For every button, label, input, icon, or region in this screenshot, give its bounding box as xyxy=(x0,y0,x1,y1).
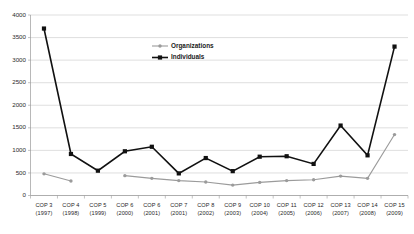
gridlines xyxy=(31,15,409,196)
data-point-marker xyxy=(339,174,342,177)
y-tick-labels: 05001000150020002500300035004000 xyxy=(12,11,26,199)
data-point-marker xyxy=(258,155,262,159)
y-tick-label: 1500 xyxy=(12,123,26,130)
chart-legend: OrganizationsIndividuals xyxy=(152,42,214,61)
x-tick-label: COP 3(1997) xyxy=(35,202,52,216)
legend-label: Individuals xyxy=(171,53,205,60)
y-tick-label: 2500 xyxy=(12,78,26,85)
y-tick-label: 0 xyxy=(23,191,27,198)
data-point-marker xyxy=(177,171,181,175)
x-tick-label: COP 4(1998) xyxy=(62,202,79,216)
data-point-marker xyxy=(312,162,316,166)
x-tick-label: COP 9(2003) xyxy=(224,202,241,216)
x-tick-labels: COP 3(1997)COP 4(1998)COP 5(1999)COP 6(2… xyxy=(35,202,404,216)
data-point-marker xyxy=(123,149,127,153)
y-axis xyxy=(28,15,31,196)
data-point-marker xyxy=(312,178,315,181)
legend-label: Organizations xyxy=(171,42,214,50)
x-tick-label: COP 15(2009) xyxy=(384,202,404,216)
data-point-marker xyxy=(42,26,46,30)
data-point-marker xyxy=(150,177,153,180)
x-tick-label: COP 6(2000) xyxy=(116,202,133,216)
y-tick-label: 500 xyxy=(16,169,27,176)
chart-container: 05001000150020002500300035004000 COP 3(1… xyxy=(0,0,414,234)
series-organizations xyxy=(42,133,396,187)
data-point-marker xyxy=(285,154,289,158)
data-point-marker xyxy=(150,145,154,149)
y-tick-label: 2000 xyxy=(12,101,26,108)
x-tick-label: COP 7(2001) xyxy=(170,202,187,216)
data-point-marker xyxy=(42,172,45,175)
x-tick-label: COP 13(2007) xyxy=(330,202,350,216)
data-point-marker xyxy=(177,179,180,182)
data-point-marker xyxy=(204,156,208,160)
series-line-segment xyxy=(44,174,71,181)
data-point-marker xyxy=(258,181,261,184)
line-chart: 05001000150020002500300035004000 COP 3(1… xyxy=(0,0,414,234)
x-tick-label: COP 10(2004) xyxy=(249,202,269,216)
data-point-marker xyxy=(69,179,72,182)
x-tick-label: COP 5(1999) xyxy=(89,202,106,216)
data-point-marker xyxy=(285,179,288,182)
data-point-marker xyxy=(231,169,235,173)
data-point-marker xyxy=(365,153,369,157)
legend-marker xyxy=(158,44,161,47)
data-point-marker xyxy=(231,183,234,186)
y-tick-label: 1000 xyxy=(12,146,26,153)
y-tick-label: 3000 xyxy=(12,56,26,63)
data-point-marker xyxy=(338,123,342,127)
data-point-marker xyxy=(392,44,396,48)
x-tick-label: COP 14(2008) xyxy=(357,202,377,216)
y-tick-label: 3500 xyxy=(12,33,26,40)
data-point-marker xyxy=(366,177,369,180)
x-axis xyxy=(31,196,409,199)
x-tick-label: COP 8(2002) xyxy=(197,202,214,216)
x-tick-label: COP 11(2005) xyxy=(277,202,297,216)
data-point-marker xyxy=(69,152,73,156)
legend-marker xyxy=(158,55,162,59)
x-tick-label: COP 12(2006) xyxy=(303,202,323,216)
data-point-marker xyxy=(393,133,396,136)
data-point-marker xyxy=(96,169,100,173)
series-line-segment xyxy=(44,29,395,174)
data-point-marker xyxy=(123,174,126,177)
data-point-marker xyxy=(204,180,207,183)
series-individuals xyxy=(42,26,397,175)
x-tick-label: COP 6(2001) xyxy=(143,202,160,216)
y-tick-label: 4000 xyxy=(12,11,26,18)
